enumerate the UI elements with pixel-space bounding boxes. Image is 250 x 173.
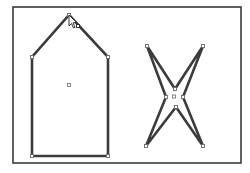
anchor-point[interactable] [107, 155, 110, 158]
anchor-point[interactable] [202, 45, 205, 48]
anchor-point[interactable] [31, 56, 34, 59]
anchor-point[interactable] [31, 155, 34, 158]
shape-center-point [68, 84, 71, 87]
shape-center-point [173, 95, 176, 98]
anchor-point[interactable] [165, 96, 168, 99]
artboard-canvas[interactable] [0, 0, 250, 173]
anchor-point[interactable] [107, 56, 110, 59]
four-point-star-shape[interactable] [145, 45, 205, 148]
anchor-point[interactable] [182, 96, 185, 99]
anchor-point[interactable] [145, 145, 148, 148]
pentagon-house-shape[interactable] [31, 14, 110, 158]
anchor-point[interactable] [146, 45, 149, 48]
anchor-point[interactable] [175, 106, 178, 109]
anchor-point[interactable] [174, 88, 177, 91]
anchor-point[interactable] [202, 145, 205, 148]
